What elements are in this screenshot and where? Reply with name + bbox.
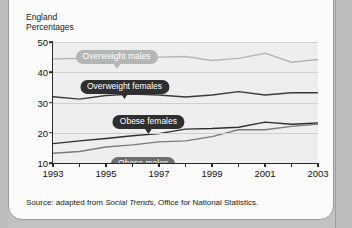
- gridline-y-50: [53, 42, 318, 43]
- ytick-mark-40: [49, 71, 53, 73]
- xtick-mark-2000: [238, 163, 239, 167]
- xtick-mark-2002: [291, 163, 292, 167]
- xtick-mark-1994: [79, 163, 80, 167]
- xtick-mark-1995: [105, 163, 106, 167]
- callout-pointer: [144, 128, 152, 134]
- xtick-mark-1997: [158, 163, 159, 167]
- callout-obese-females: Obese females: [113, 110, 184, 129]
- xtick-label-1995: 1995: [95, 168, 116, 179]
- line-chart: Overweight malesOverweight femalesObese …: [26, 37, 328, 189]
- callout-label: Overweight females: [80, 80, 169, 94]
- ytick-mark-50: [49, 41, 53, 43]
- source-publication: Social Trends: [105, 198, 153, 207]
- left-page-gutter: [0, 0, 8, 228]
- xtick-mark-1993: [52, 163, 53, 167]
- xtick-mark-1998: [185, 163, 186, 167]
- gridline-y-30: [53, 103, 318, 104]
- callout-label: Overweight males: [76, 50, 158, 64]
- source-suffix: , Office for National Statistics.: [153, 198, 258, 207]
- series-line-obese-males: [53, 124, 318, 153]
- callout-label: Obese males: [111, 157, 175, 163]
- callout-obese-males: Obese males: [111, 152, 175, 163]
- plot-inner: Overweight malesOverweight femalesObese …: [53, 42, 318, 163]
- gridline-y-20: [53, 133, 318, 134]
- callout-label: Obese females: [113, 115, 184, 129]
- ytick-label-40: 40: [37, 67, 48, 78]
- callout-pointer: [113, 63, 121, 69]
- ytick-label-30: 30: [37, 97, 48, 108]
- right-page-gutter: [335, 0, 352, 228]
- ytick-label-50: 50: [37, 37, 48, 48]
- xtick-mark-1996: [132, 163, 133, 167]
- gridline-y-40: [53, 72, 318, 73]
- ytick-mark-20: [49, 132, 53, 134]
- xtick-mark-1999: [211, 163, 212, 167]
- page-background: England Percentages Overweight malesOver…: [0, 0, 352, 228]
- ytick-label-10: 10: [37, 158, 48, 169]
- xtick-label-2001: 2001: [254, 168, 275, 179]
- xtick-mark-2003: [317, 163, 318, 167]
- source-prefix: Source: adapted from: [26, 198, 105, 207]
- xtick-label-1999: 1999: [201, 168, 222, 179]
- chart-caption: England Percentages: [26, 12, 74, 32]
- source-note: Source: adapted from Social Trends, Offi…: [26, 198, 258, 207]
- xtick-label-1993: 1993: [42, 168, 63, 179]
- xtick-label-1997: 1997: [148, 168, 169, 179]
- callout-overweight-females: Overweight females: [80, 75, 169, 94]
- callout-pointer: [121, 93, 129, 99]
- ytick-label-20: 20: [37, 127, 48, 138]
- ytick-mark-30: [49, 102, 53, 104]
- xtick-mark-2001: [264, 163, 265, 167]
- plot-area: Overweight malesOverweight femalesObese …: [52, 42, 318, 164]
- callout-overweight-males: Overweight males: [76, 45, 158, 64]
- xtick-label-2003: 2003: [307, 168, 328, 179]
